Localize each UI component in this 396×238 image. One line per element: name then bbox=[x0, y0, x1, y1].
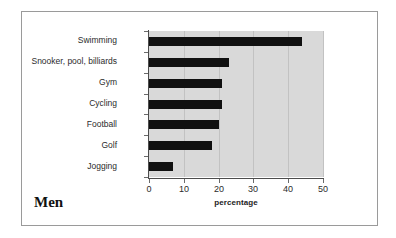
chart-figure: SwimmingSnooker, pool, billiardsGymCycli… bbox=[21, 11, 378, 226]
x-axis-tick-label: 20 bbox=[204, 184, 234, 194]
chart-title: Men bbox=[34, 194, 63, 211]
x-axis-tick-label: 30 bbox=[238, 184, 268, 194]
bar bbox=[149, 100, 222, 109]
y-axis-tick bbox=[144, 156, 148, 157]
bar bbox=[149, 120, 219, 129]
x-axis-tick bbox=[323, 179, 324, 183]
x-axis-tick bbox=[253, 179, 254, 183]
gridline bbox=[288, 31, 289, 177]
category-label: Golf bbox=[101, 141, 117, 150]
bar bbox=[149, 37, 302, 46]
y-axis-tick bbox=[144, 73, 148, 74]
x-axis-line bbox=[148, 178, 324, 179]
bar bbox=[149, 162, 173, 171]
x-axis-tick-label: 50 bbox=[308, 184, 338, 194]
x-axis-tick bbox=[149, 179, 150, 183]
x-axis-tick-label: 40 bbox=[273, 184, 303, 194]
y-axis-tick bbox=[144, 177, 148, 178]
category-label: Jogging bbox=[87, 162, 117, 171]
category-label: Cycling bbox=[89, 99, 117, 108]
gridline bbox=[253, 31, 254, 177]
bar bbox=[149, 141, 212, 150]
y-axis-tick bbox=[144, 135, 148, 136]
x-axis-tick-label: 0 bbox=[134, 184, 164, 194]
y-axis-tick bbox=[144, 31, 148, 32]
category-label: Swimming bbox=[78, 36, 117, 45]
x-axis-tick bbox=[219, 179, 220, 183]
y-axis-tick bbox=[144, 52, 148, 53]
x-axis-tick bbox=[184, 179, 185, 183]
gridline bbox=[323, 31, 324, 177]
bar bbox=[149, 79, 222, 88]
x-axis-tick bbox=[288, 179, 289, 183]
x-axis-title: percentage bbox=[149, 198, 323, 207]
x-axis-tick-label: 10 bbox=[169, 184, 199, 194]
bar bbox=[149, 58, 229, 67]
y-axis-tick bbox=[144, 94, 148, 95]
category-label: Gym bbox=[99, 78, 117, 87]
category-label: Snooker, pool, billiards bbox=[31, 57, 117, 66]
y-axis-tick bbox=[144, 114, 148, 115]
category-label: Football bbox=[87, 120, 117, 129]
